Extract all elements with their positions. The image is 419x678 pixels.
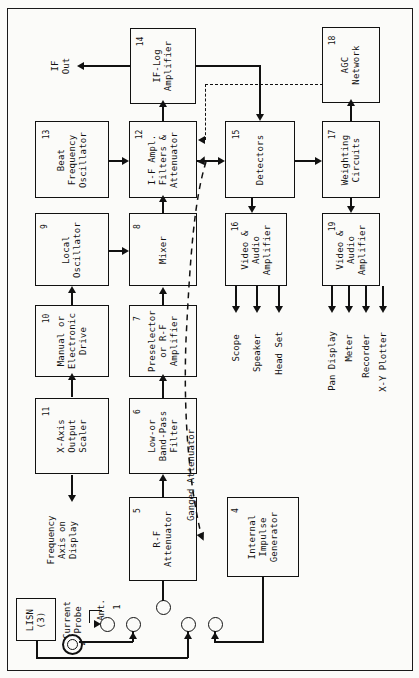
block-label: X-Axis Output Scaler	[56, 419, 89, 453]
block-number: 19	[328, 222, 338, 231]
block-label: Detectors	[255, 134, 266, 185]
block-weighting-circuits[interactable]: Weighting Circuits 17	[322, 121, 380, 198]
arrowhead-speaker	[253, 306, 261, 313]
block-number: 16	[231, 222, 241, 231]
output-label-recorder: Recorder	[358, 322, 374, 390]
block-label: Weighting Circuits	[340, 134, 362, 185]
block-number: 17	[328, 130, 338, 139]
wire-impulse-gen-across	[214, 641, 263, 643]
connector-rf-input[interactable]	[156, 600, 171, 615]
arrowhead-detectors15-to-videoamp16	[248, 206, 256, 213]
arrowhead-head-set	[275, 306, 283, 313]
block-number: 6	[135, 407, 140, 416]
output-label-xy-plotter: X-Y Plotter	[375, 322, 391, 402]
block-agc-network[interactable]: AGC Network 18	[322, 27, 380, 103]
block-number: 5	[135, 506, 140, 515]
stub-speaker	[256, 286, 258, 308]
figure-canvas: IF-Log Amplifier 14 Beat Frequency Oscil…	[0, 0, 419, 678]
stub-xy-plotter	[382, 286, 384, 308]
block-manual-or-electronic-drive[interactable]: Manual or Electronic Drive 10	[35, 305, 109, 377]
arrowhead-detectors15-to-weighting17	[315, 157, 322, 165]
output-label-meter: Meter	[341, 322, 357, 374]
connector-antenna-port-1[interactable]	[100, 617, 115, 632]
block-beat-frequency-oscillator[interactable]: Beat Frequency Oscillator 13	[35, 121, 109, 198]
block-label: Internal Impulse Generator	[247, 512, 280, 563]
block-label: Manual or Electronic Drive	[56, 313, 89, 369]
conn-drive10-to-lo9	[71, 291, 73, 305]
conn-scaler11-to-freq-axis	[71, 475, 73, 497]
conn-ganged-attenuator	[150, 140, 220, 560]
block-label: Local Oscillator	[61, 221, 83, 277]
arrowhead-iflog14-to-detectors15	[256, 114, 264, 121]
block-number: 18	[328, 36, 338, 45]
conn-rf-input-to-attenuator5	[162, 581, 164, 601]
block-label: Video & Audio Amplifier	[335, 224, 368, 275]
block-number: 7	[135, 314, 140, 323]
block-label: Video & Audio Amplifier	[240, 224, 273, 275]
arrowhead-meter	[345, 306, 353, 313]
arrowhead-if-out	[77, 62, 84, 70]
block-x-axis-output-scaler[interactable]: X-Axis Output Scaler 11	[35, 398, 109, 474]
block-if-log-amplifier[interactable]: IF-Log Amplifier 14	[130, 28, 196, 104]
arrowhead-bfo13-to-if12	[122, 157, 129, 165]
connector-receiver-input-b[interactable]	[181, 617, 196, 632]
stub-head-set	[278, 286, 280, 308]
block-number: 9	[42, 222, 47, 231]
label-port-1: 1	[111, 600, 123, 614]
conn-agc18-dashed-h	[205, 84, 323, 85]
conn-iflog14-down-to-detectors15	[259, 65, 261, 117]
wire-current-probe-to-input-a	[79, 641, 133, 643]
conn-detectors15-to-weighting17	[295, 160, 316, 162]
label-if-out: IF Out	[48, 40, 74, 92]
wire-lisn-riser	[187, 631, 189, 658]
connector-current-probe-port-2[interactable]	[62, 634, 83, 655]
block-label: IF-Log Amplifier	[152, 41, 174, 92]
block-label: LISN (3)	[25, 608, 47, 630]
arrowhead-weighting17-to-videoamp19	[347, 206, 355, 213]
arrowhead-scaler11-to-drive10	[68, 373, 76, 380]
wire-current-probe-riser	[132, 631, 134, 642]
block-detectors[interactable]: Detectors 15	[225, 121, 295, 198]
arrowhead-weighting17-to-agc18	[347, 99, 355, 106]
block-video-audio-amplifier-19[interactable]: Video & Audio Amplifier 19	[322, 213, 380, 286]
wire-lisn-down	[36, 641, 38, 658]
arrowhead-scope	[232, 306, 240, 313]
wire-impulse-gen-down	[262, 577, 264, 643]
block-label: AGC Network	[340, 45, 362, 84]
conn-weighting17-to-agc18	[350, 104, 352, 121]
block-number: 14	[136, 37, 146, 46]
arrowhead-if12-to-iflog14	[159, 100, 167, 107]
conn-agc18-dashed-v	[205, 84, 206, 140]
stub-scope	[235, 286, 237, 308]
block-number: 15	[232, 130, 242, 139]
arrowhead-drive10-to-lo9	[68, 286, 76, 293]
connector-impulse-gen-output[interactable]	[208, 617, 223, 632]
arrowhead-xy-plotter	[379, 306, 387, 313]
conn-if12-to-iflog14	[162, 105, 164, 121]
arrowhead-scaler11-to-freq-axis	[68, 495, 76, 502]
wire-impulse-gen-riser	[214, 631, 216, 642]
output-label-pan-display: Pan Display	[324, 322, 340, 400]
arrowhead-lo9-to-mixer8	[122, 247, 129, 255]
block-local-oscillator[interactable]: Local Oscillator 9	[35, 213, 109, 286]
block-number: 10	[42, 314, 52, 323]
output-label-scope: Scope	[228, 320, 244, 376]
block-label: Beat Frequency Oscillator	[56, 131, 89, 187]
wire-lisn-across	[36, 657, 188, 659]
block-video-audio-amplifier-16[interactable]: Video & Audio Amplifier 16	[225, 213, 287, 286]
output-label-speaker: Speaker	[249, 322, 265, 384]
block-number: 8	[135, 222, 140, 231]
block-number: 4	[233, 506, 238, 515]
block-internal-impulse-generator[interactable]: Internal Impulse Generator 4	[227, 497, 299, 577]
conn-scaler11-to-drive10	[71, 378, 73, 397]
stub-recorder	[365, 286, 367, 308]
block-number: 11	[42, 407, 52, 416]
block-lisn[interactable]: LISN (3)	[16, 598, 56, 641]
connector-receiver-input-a[interactable]	[126, 617, 141, 632]
arrowhead-recorder	[362, 306, 370, 313]
label-frequency-axis-on-display: Frequency Axis on Display	[42, 500, 82, 580]
conn-iflog14-right-stub	[196, 65, 260, 67]
stub-meter	[348, 286, 350, 308]
arrowhead-antenna-port-1	[94, 620, 101, 628]
block-number: 13	[42, 130, 52, 139]
